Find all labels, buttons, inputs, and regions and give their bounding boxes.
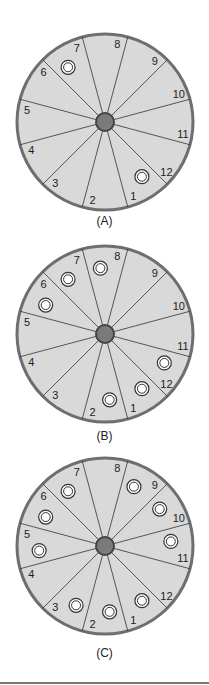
hub xyxy=(96,537,114,555)
segment-label: 3 xyxy=(52,389,58,401)
segment-label: 9 xyxy=(152,55,158,67)
caption-a: (A) xyxy=(0,214,209,228)
wheel-c: 123456789101112 xyxy=(0,452,209,667)
segment-label: 2 xyxy=(90,406,96,418)
hub xyxy=(96,113,114,131)
segment-label: 8 xyxy=(114,38,120,50)
segment-label: 3 xyxy=(52,601,58,613)
segment-label: 6 xyxy=(41,66,47,78)
segment-label: 12 xyxy=(160,378,172,390)
segment-label: 10 xyxy=(173,88,185,100)
segment-label: 3 xyxy=(52,177,58,189)
segment-label: 1 xyxy=(130,614,136,626)
segment-label: 4 xyxy=(28,144,34,156)
segment-label: 9 xyxy=(152,267,158,279)
wheel-b: 123456789101112 xyxy=(0,240,209,455)
segment-label: 7 xyxy=(74,466,80,478)
segment-label: 10 xyxy=(173,512,185,524)
caption-c: (C) xyxy=(0,646,209,660)
wheel-a-graphic: 123456789101112 xyxy=(0,28,209,218)
segment-label: 1 xyxy=(130,190,136,202)
segment-label: 4 xyxy=(28,356,34,368)
hub xyxy=(96,325,114,343)
segment-label: 4 xyxy=(28,568,34,580)
segment-label: 1 xyxy=(130,402,136,414)
segment-label: 12 xyxy=(160,166,172,178)
segment-label: 11 xyxy=(177,552,188,564)
segment-label: 8 xyxy=(114,250,120,262)
segment-label: 5 xyxy=(24,316,30,328)
segment-label: 5 xyxy=(24,104,30,116)
segment-label: 11 xyxy=(177,128,188,140)
segment-label: 9 xyxy=(152,479,158,491)
wheel-c-graphic: 123456789101112 xyxy=(0,452,209,642)
segment-label: 2 xyxy=(90,618,96,630)
wheel-b-graphic: 123456789101112 xyxy=(0,240,209,430)
segment-label: 7 xyxy=(74,42,80,54)
segment-label: 11 xyxy=(177,340,188,352)
segment-label: 6 xyxy=(41,278,47,290)
segment-label: 8 xyxy=(114,462,120,474)
segment-label: 5 xyxy=(24,528,30,540)
segment-label: 10 xyxy=(173,300,185,312)
segment-label: 7 xyxy=(74,254,80,266)
segment-label: 6 xyxy=(41,490,47,502)
segment-label: 2 xyxy=(90,194,96,206)
segment-label: 12 xyxy=(160,590,172,602)
divider-line xyxy=(0,682,209,684)
caption-b: (B) xyxy=(0,429,209,443)
wheel-a: 123456789101112 xyxy=(0,28,209,243)
